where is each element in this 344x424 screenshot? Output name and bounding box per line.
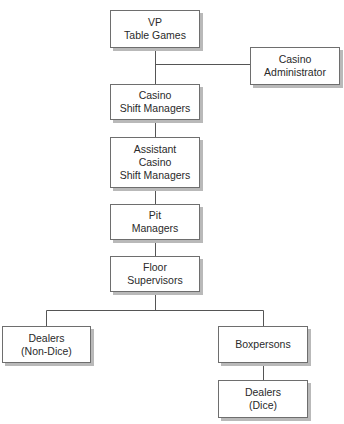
node-label-line: Casino bbox=[139, 89, 172, 102]
node-label-line: Shift Managers bbox=[120, 102, 191, 115]
node-assistant-casino-shift-managers: Assistant Casino Shift Managers bbox=[110, 137, 200, 188]
node-label-line: Boxpersons bbox=[235, 338, 290, 351]
node-casino-administrator: Casino Administrator bbox=[250, 47, 340, 85]
node-label-line: Managers bbox=[132, 222, 179, 235]
node-label-line: Pit bbox=[149, 209, 161, 222]
node-casino-shift-managers: Casino Shift Managers bbox=[110, 84, 200, 120]
node-label-line: Supervisors bbox=[127, 274, 182, 287]
node-label-line: Table Games bbox=[124, 29, 186, 42]
node-label-line: Floor bbox=[143, 261, 167, 274]
node-label-line: Dealers bbox=[245, 386, 281, 399]
node-label-line: Casino bbox=[279, 53, 312, 66]
node-pit-managers: Pit Managers bbox=[110, 204, 200, 240]
node-label-line: Administrator bbox=[264, 66, 326, 79]
node-label-line: Dealers bbox=[28, 332, 64, 345]
node-label-line: Casino bbox=[139, 156, 172, 169]
node-label-line: Shift Managers bbox=[120, 169, 191, 182]
node-dealers-non-dice: Dealers (Non-Dice) bbox=[2, 326, 91, 363]
node-label-line: VP bbox=[148, 16, 162, 29]
node-label-line: (Dice) bbox=[249, 399, 277, 412]
node-floor-supervisors: Floor Supervisors bbox=[110, 256, 200, 292]
node-label-line: Assistant bbox=[134, 143, 177, 156]
node-vp-table-games: VP Table Games bbox=[110, 10, 200, 48]
node-label-line: (Non-Dice) bbox=[21, 345, 72, 358]
node-boxpersons: Boxpersons bbox=[218, 326, 308, 363]
node-dealers-dice: Dealers (Dice) bbox=[218, 380, 308, 418]
